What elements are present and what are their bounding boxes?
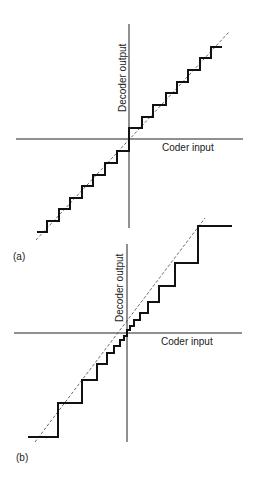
panel-a-x-axis-label: Coder input [162,143,214,153]
quantizer-staircase [28,226,232,437]
ideal-linear-dashed-line [35,218,205,442]
panel-b-y-axis-label: Decoder output [115,254,125,322]
panel-a-label: (a) [13,252,25,262]
panel-a-uniform-quantizer [16,24,243,240]
panel-b-nonuniform-quantizer [14,218,242,442]
panel-a-y-axis-label: Decoder output [118,44,128,112]
panel-b-label: (b) [16,453,28,463]
panel-b-x-axis-label: Coder input [161,337,213,347]
quantizer-characteristic-figure: Decoder output Coder input (a) Decoder o… [0,0,254,481]
